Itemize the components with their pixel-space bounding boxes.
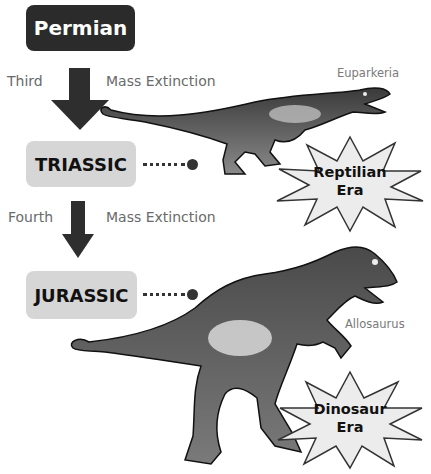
era-label: TRIASSIC — [35, 154, 127, 175]
species-label-euparkeria: Euparkeria — [337, 66, 399, 80]
burst-line-1: Reptilian — [275, 163, 425, 181]
burst-line-1: Dinosaur — [276, 400, 424, 418]
era-label: Permian — [34, 16, 128, 40]
transition-ordinal: Fourth — [8, 209, 53, 225]
era-connector — [143, 159, 198, 170]
species-label-allosaurus: Allosaurus — [345, 317, 405, 331]
burst-line-2: Era — [275, 181, 425, 199]
burst-dinosaur-era: Dinosaur Era — [276, 368, 424, 470]
burst-line-2: Era — [276, 418, 424, 436]
era-box-permian: Permian — [26, 5, 135, 51]
transition-event: Mass Extinction — [106, 209, 216, 225]
transition-ordinal: Third — [7, 73, 43, 89]
burst-reptilian-era: Reptilian Era — [275, 133, 425, 233]
connector-dot — [187, 159, 198, 170]
dotted-line — [143, 163, 185, 166]
era-box-triassic: TRIASSIC — [26, 141, 136, 187]
